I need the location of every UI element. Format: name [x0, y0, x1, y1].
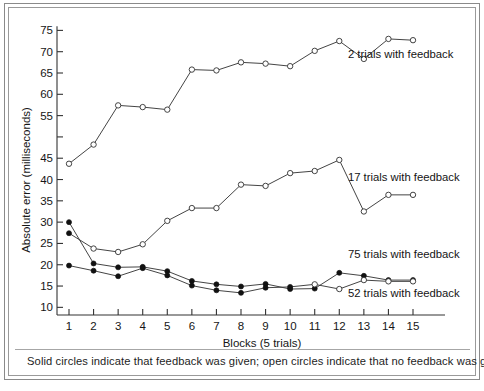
- x-tick-label: 14: [382, 320, 395, 332]
- y-tick-label: 15: [40, 280, 53, 292]
- y-axis-title: Absolute error (milliseconds): [20, 107, 32, 253]
- data-point-open: [165, 218, 170, 223]
- data-point-open: [287, 170, 292, 175]
- x-tick-label: 5: [164, 320, 170, 332]
- x-tick-label: 15: [407, 320, 420, 332]
- data-point-solid: [239, 290, 244, 295]
- caption-divider: [15, 349, 470, 350]
- data-point-open: [214, 68, 219, 73]
- y-tick-label: 70: [40, 46, 53, 58]
- y-tick-label: 65: [40, 67, 53, 79]
- data-point-solid: [91, 268, 96, 273]
- data-point-open: [214, 205, 219, 210]
- figure-caption: Solid circles indicate that feedback was…: [27, 355, 467, 367]
- data-point-solid: [288, 284, 293, 289]
- data-point-solid: [67, 263, 72, 268]
- y-tick-label: 20: [40, 259, 53, 271]
- data-point-solid: [67, 231, 72, 236]
- series-label: 2 trials with feedback: [348, 48, 454, 60]
- data-point-open: [386, 279, 391, 284]
- x-tick-label: 1: [66, 320, 72, 332]
- data-point-open: [140, 242, 145, 247]
- data-point-open: [410, 37, 415, 42]
- data-point-open: [238, 182, 243, 187]
- data-point-open: [312, 168, 317, 173]
- y-tick-label: 55: [40, 110, 53, 122]
- y-tick-label: 25: [40, 237, 53, 249]
- data-point-open: [337, 38, 342, 43]
- x-tick-label: 3: [115, 320, 121, 332]
- x-tick-label: 10: [284, 320, 297, 332]
- data-point-open: [312, 48, 317, 53]
- x-tick-label: 4: [140, 320, 147, 332]
- y-tick-label: 40: [40, 174, 53, 186]
- series-labels-group: 2 trials with feedback17 trials with fee…: [348, 48, 460, 299]
- data-point-open: [386, 192, 391, 197]
- data-point-open: [189, 205, 194, 210]
- data-point-open: [386, 36, 391, 41]
- series-label: 52 trials with feedback: [348, 287, 460, 299]
- data-point-solid: [189, 278, 194, 283]
- data-point-open: [312, 282, 317, 287]
- data-point-solid: [214, 282, 219, 287]
- data-point-solid: [91, 261, 96, 266]
- data-point-solid: [116, 274, 121, 279]
- data-point-open: [263, 183, 268, 188]
- figure-container: 10152025303540455560657075 1234567891011…: [0, 0, 484, 391]
- x-tick-label: 12: [333, 320, 346, 332]
- series-label: 17 trials with feedback: [348, 171, 460, 183]
- data-point-open: [337, 157, 342, 162]
- x-tick-labels: 123456789101112131415: [66, 320, 420, 332]
- data-point-open: [165, 107, 170, 112]
- data-point-solid: [189, 283, 194, 288]
- data-point-open: [337, 286, 342, 291]
- x-tick-label: 6: [189, 320, 195, 332]
- data-point-solid: [337, 270, 342, 275]
- x-tick-label: 13: [357, 320, 370, 332]
- x-tick-label: 7: [213, 320, 219, 332]
- data-point-open: [91, 246, 96, 251]
- y-tick-label: 60: [40, 88, 53, 100]
- y-tick-label: 35: [40, 195, 53, 207]
- data-point-open: [66, 161, 71, 166]
- data-point-open: [238, 60, 243, 65]
- data-point-open: [361, 209, 366, 214]
- x-axis-title: Blocks (5 trials): [223, 337, 302, 349]
- data-point-solid: [67, 220, 72, 225]
- series-label: 75 trials with feedback: [348, 248, 460, 260]
- data-point-open: [263, 61, 268, 66]
- y-tick-label: 75: [40, 24, 53, 36]
- data-point-solid: [239, 284, 244, 289]
- line-chart: 10152025303540455560657075 1234567891011…: [0, 0, 484, 391]
- data-point-open: [410, 279, 415, 284]
- y-tick-label: 45: [40, 152, 53, 164]
- data-point-solid: [214, 288, 219, 293]
- data-point-open: [115, 249, 120, 254]
- y-tick-label: 30: [40, 216, 53, 228]
- x-tick-label: 11: [309, 320, 321, 332]
- data-point-solid: [140, 266, 145, 271]
- y-tick-label: 10: [40, 301, 53, 313]
- data-point-open: [115, 103, 120, 108]
- data-point-open: [410, 192, 415, 197]
- data-point-open: [140, 104, 145, 109]
- data-point-solid: [116, 265, 121, 270]
- data-point-solid: [165, 273, 170, 278]
- data-point-open: [287, 63, 292, 68]
- x-tick-label: 2: [90, 320, 96, 332]
- data-point-open: [189, 67, 194, 72]
- x-tick-label: 8: [238, 320, 244, 332]
- y-tick-labels: 10152025303540455560657075: [40, 24, 53, 313]
- data-point-open: [361, 277, 366, 282]
- x-tick-label: 9: [262, 320, 268, 332]
- data-point-solid: [263, 285, 268, 290]
- data-point-open: [91, 142, 96, 147]
